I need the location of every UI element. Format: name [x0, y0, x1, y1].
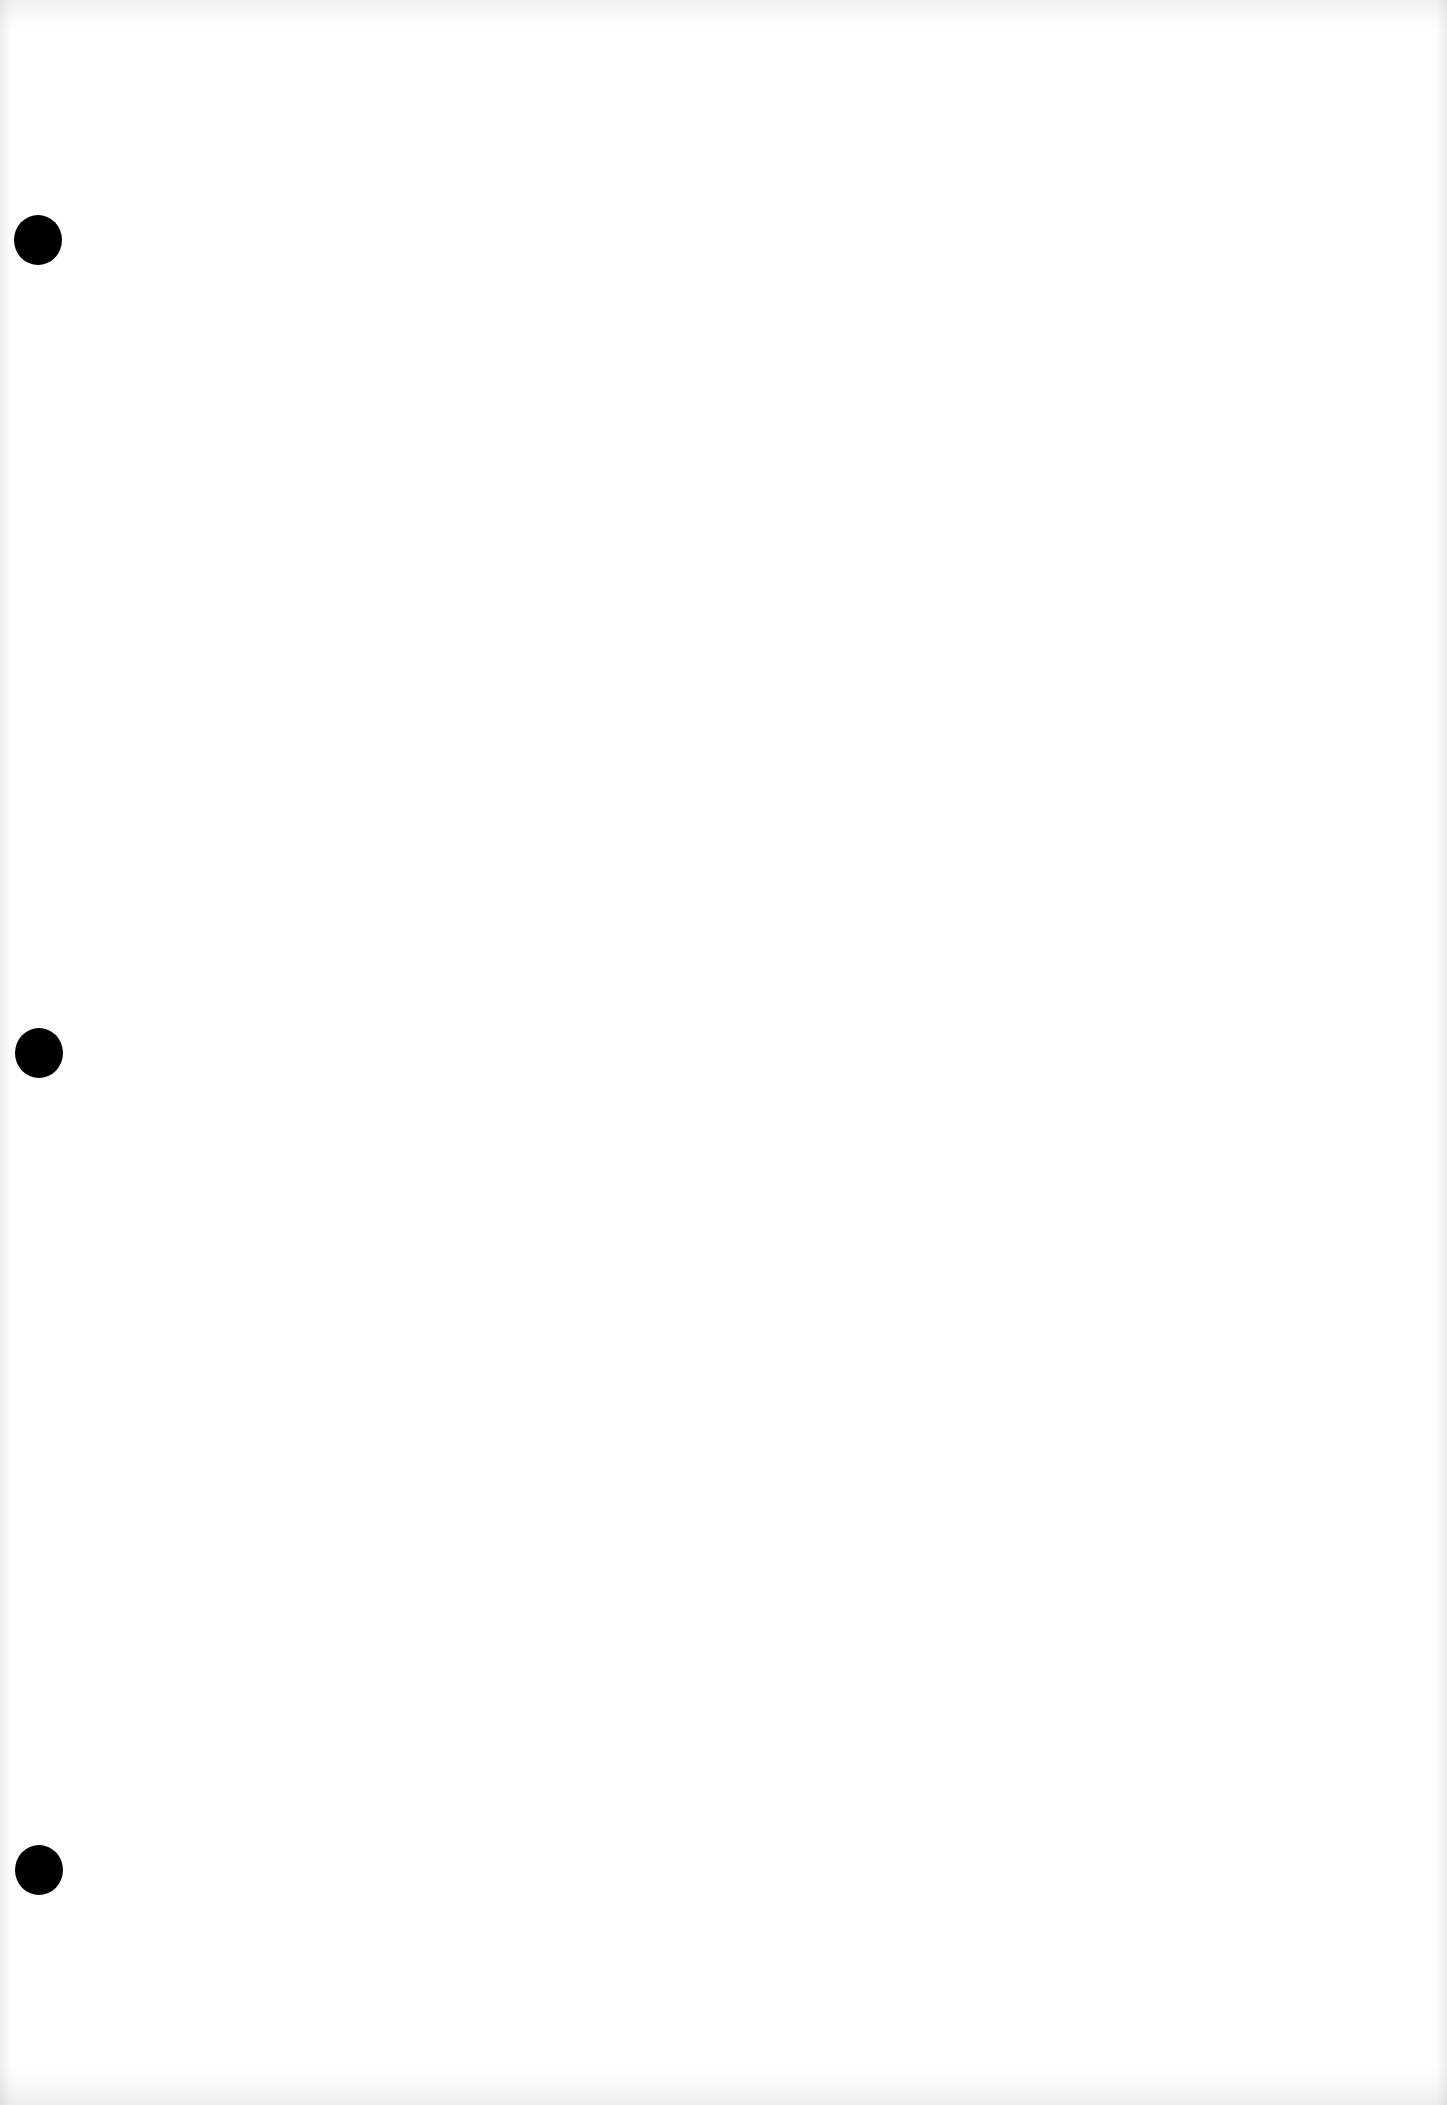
punch-hole-bottom — [15, 1845, 63, 1895]
blank-paper-page — [0, 0, 1447, 2105]
page-edge-shadow-bottom — [0, 2065, 1447, 2105]
page-edge-shadow-right — [1437, 0, 1447, 2105]
punch-hole-top — [14, 215, 62, 265]
punch-hole-middle — [15, 1028, 63, 1078]
page-edge-shadow-top — [0, 0, 1447, 30]
page-edge-shadow-left — [0, 0, 10, 2105]
